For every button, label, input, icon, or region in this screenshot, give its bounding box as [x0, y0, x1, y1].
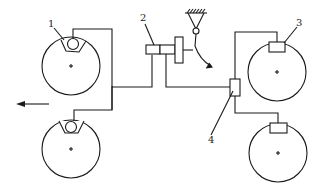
pedal-arm [195, 34, 211, 66]
pedal-pivot [193, 28, 199, 34]
label-2: 2 [140, 12, 146, 23]
pipe-left-junction [112, 55, 152, 87]
cam-rear-left [66, 122, 77, 133]
label-3: 3 [296, 17, 302, 28]
ground-hatch [187, 9, 205, 13]
leader-3 [284, 27, 297, 43]
label-1: 1 [48, 18, 54, 29]
leader-2 [145, 24, 154, 45]
leader-1 [54, 28, 64, 40]
pipe-rear-left [74, 86, 112, 121]
brake-pad-rear-right [270, 123, 287, 133]
valve-2-section [160, 45, 175, 54]
cam-1 [68, 39, 79, 50]
direction-arrow-icon [16, 101, 25, 107]
valve-2-body [146, 45, 160, 54]
brake-schematic: 1 2 3 4 [0, 0, 321, 196]
pivot-bracket [188, 13, 204, 29]
pipe-front-right [235, 32, 277, 79]
leader-4 [211, 91, 233, 135]
label-4: 4 [208, 134, 214, 145]
valve-2-diaphragm [175, 37, 183, 63]
brake-pad-3 [269, 42, 285, 52]
